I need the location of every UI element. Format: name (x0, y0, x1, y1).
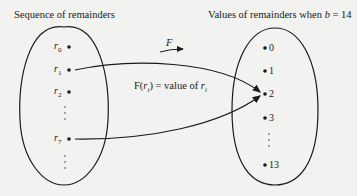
left-title: Sequence of remainders (14, 9, 115, 20)
value-label: 3 (269, 112, 274, 123)
right-title: Values of remainders when b = 14 (208, 9, 352, 20)
domain-ellipse (20, 27, 108, 185)
value-label: 0 (269, 42, 274, 53)
value-label: 1 (269, 65, 274, 76)
remainder-label: r7 (54, 132, 61, 146)
mapping-label: F(ri) = value of ri (134, 80, 207, 94)
function-arrow-icon (160, 49, 183, 52)
value-label: 13 (269, 159, 279, 170)
value-label: 2 (269, 88, 274, 99)
remainder-label: r2 (54, 85, 61, 99)
remainder-label: r0 (54, 40, 61, 54)
remainder-label: r1 (54, 63, 61, 77)
function-label: F (166, 37, 172, 48)
